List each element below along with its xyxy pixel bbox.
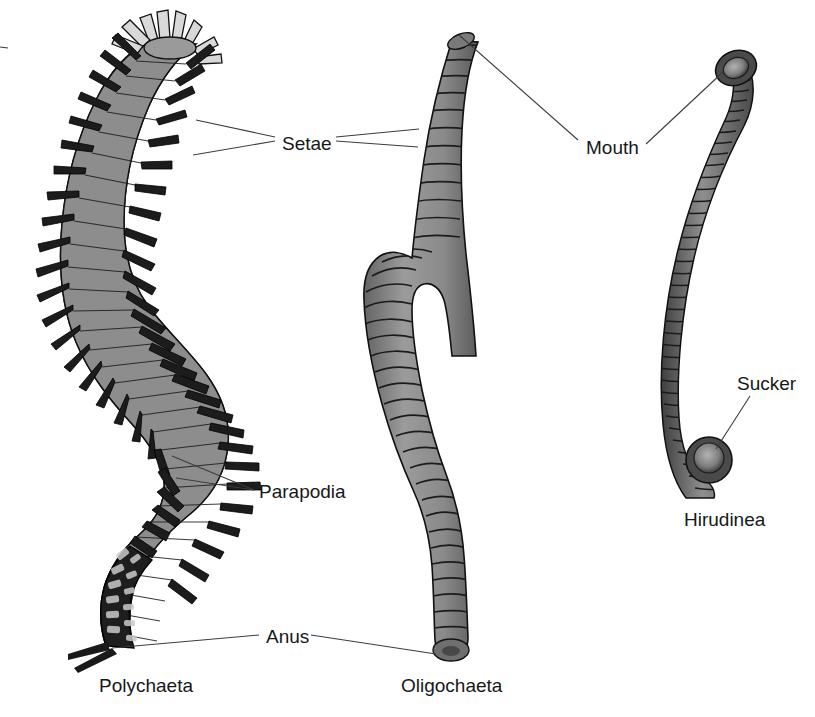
callout-label-setae: Setae <box>282 133 332 154</box>
oligochaeta-anus <box>442 646 460 656</box>
leader-mouth-oligochaeta <box>459 35 578 140</box>
callout-label-mouth: Mouth <box>586 137 639 158</box>
taxon-label-oligochaeta: Oligochaeta <box>401 675 503 696</box>
leader-anus-oligochaeta <box>311 635 436 654</box>
callout-label-parapodia: Parapodia <box>259 481 346 502</box>
oligochaeta-illustration <box>364 29 482 661</box>
callout-labels: Setae Mouth Parapodia Sucker Anus <box>259 133 797 647</box>
leader-setae-oligochaeta-1 <box>336 129 419 137</box>
polychaeta-posterior-tail <box>68 546 152 673</box>
polychaeta-prostomium <box>144 37 196 59</box>
leader-edge-fragment <box>0 47 8 48</box>
leader-setae-oligochaeta-2 <box>336 141 418 147</box>
leader-setae-polychaeta-2 <box>193 141 275 155</box>
leader-mouth-hirudinea <box>646 72 723 144</box>
hirudinea-body <box>661 62 753 498</box>
callout-label-anus: Anus <box>266 626 309 647</box>
diagram-canvas: Setae Mouth Parapodia Sucker Anus Polych… <box>0 0 815 717</box>
taxon-label-hirudinea: Hirudinea <box>684 509 766 530</box>
polychaeta-illustration <box>36 10 261 673</box>
leader-sucker <box>716 396 750 449</box>
hirudinea-sucker-disc <box>694 443 724 473</box>
hirudinea-illustration <box>659 44 762 498</box>
annelid-diagram: Setae Mouth Parapodia Sucker Anus Polych… <box>0 0 815 717</box>
callout-label-sucker: Sucker <box>737 373 797 394</box>
leader-setae-polychaeta-1 <box>196 120 275 137</box>
taxon-label-polychaeta: Polychaeta <box>99 675 193 696</box>
